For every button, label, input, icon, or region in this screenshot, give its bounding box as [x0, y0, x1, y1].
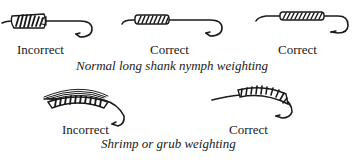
- top-label-correct-2: Correct: [278, 42, 317, 58]
- curved-hook-overbuilt-wrap-icon: [44, 89, 124, 126]
- hook-front-wrap-icon: [122, 15, 222, 36]
- hook-lumpy-wrap-icon: [2, 14, 92, 37]
- curved-hook-wrap-icon: [212, 86, 292, 118]
- top-label-incorrect: Incorrect: [17, 42, 64, 58]
- hook-mid-wrap-icon: [256, 12, 348, 33]
- bottom-row-caption: Shrimp or grub weighting: [101, 136, 236, 152]
- top-row-caption: Normal long shank nymph weighting: [76, 58, 268, 74]
- top-label-correct-1: Correct: [150, 42, 189, 58]
